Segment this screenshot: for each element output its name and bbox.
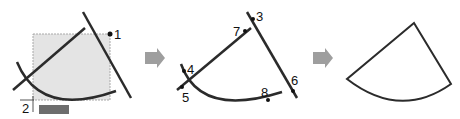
label-2: 2	[22, 101, 29, 116]
label-7: 7	[233, 24, 240, 39]
panel-step-2: 3 7 4 5 6 8	[177, 9, 298, 105]
label-5: 5	[182, 90, 189, 105]
trim-steps-diagram: 1 2 3 7 4 5 6 8	[0, 0, 460, 119]
vertical-line	[247, 12, 297, 98]
label-4: 4	[187, 62, 194, 77]
cursor-tooltip	[39, 105, 69, 114]
trimmed-sector	[347, 23, 451, 101]
point-3	[251, 17, 255, 21]
arrow-right-icon	[145, 48, 165, 68]
selection-window	[33, 34, 110, 100]
panel-step-3	[347, 23, 451, 101]
pick-point-1	[108, 32, 113, 37]
point-6	[291, 89, 295, 93]
point-7	[243, 29, 247, 33]
point-5	[180, 85, 184, 89]
label-1: 1	[114, 27, 121, 42]
point-4	[182, 69, 186, 73]
arrow-right-icon	[313, 48, 333, 68]
label-3: 3	[256, 9, 263, 24]
panel-step-1: 1 2	[13, 12, 131, 116]
label-6: 6	[291, 73, 298, 88]
label-8: 8	[261, 85, 268, 100]
